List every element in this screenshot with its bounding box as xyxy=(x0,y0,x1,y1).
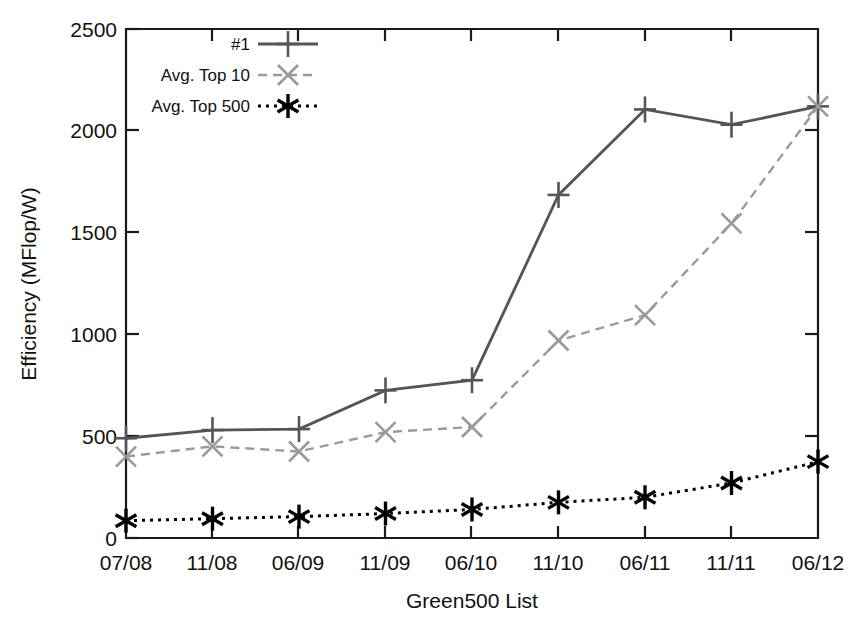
x-tick-label-1: 11/08 xyxy=(187,551,238,574)
series-layer xyxy=(115,93,829,532)
data-point xyxy=(635,305,655,325)
data-point xyxy=(808,450,829,474)
y-tick-label-500: 500 xyxy=(82,425,117,448)
data-point xyxy=(722,213,742,233)
y-tick-label-2500: 2500 xyxy=(70,18,117,41)
data-point xyxy=(289,505,310,529)
y-tick-label-2000: 2000 xyxy=(70,119,117,142)
series-2 xyxy=(116,450,829,533)
line-chart: 0 500 1000 1500 2000 2500 07/08 11/08 06… xyxy=(0,0,858,627)
y-tick-label-1500: 1500 xyxy=(70,221,117,244)
x-tick-label-3: 11/09 xyxy=(360,551,411,574)
chart-container: 0 500 1000 1500 2000 2500 07/08 11/08 06… xyxy=(0,0,858,627)
data-point xyxy=(376,422,396,442)
x-tick-label-0: 07/08 xyxy=(100,551,153,574)
data-point xyxy=(462,417,482,437)
x-axis-title: Green500 List xyxy=(406,589,538,612)
legend-label-1: Avg. Top 10 xyxy=(161,66,250,85)
y-tick-label-0: 0 xyxy=(105,527,117,550)
data-point xyxy=(288,416,310,442)
data-point xyxy=(461,367,483,393)
data-point xyxy=(116,509,137,533)
x-tick-label-8: 06/12 xyxy=(792,551,845,574)
data-point xyxy=(721,112,743,138)
x-tick-label-5: 11/10 xyxy=(533,551,584,574)
legend-label-0: #1 xyxy=(231,35,250,54)
data-point xyxy=(202,507,223,531)
data-point xyxy=(549,331,569,351)
y-axis-title: Efficiency (MFlop/W) xyxy=(17,187,40,380)
series-1 xyxy=(116,96,828,466)
x-tick-label-2: 06/09 xyxy=(272,551,325,574)
x-tick-label-7: 11/11 xyxy=(706,551,755,574)
legend-marker-0 xyxy=(277,31,299,57)
legend-marker-2 xyxy=(278,94,299,118)
x-tick-label-4: 06/10 xyxy=(445,551,498,574)
legend-samples xyxy=(258,31,318,118)
series-0 xyxy=(115,93,829,451)
legend: #1 Avg. Top 10 Avg. Top 500 xyxy=(151,31,318,118)
y-tick-label-1000: 1000 xyxy=(70,323,117,346)
data-point xyxy=(375,377,397,403)
legend-label-2: Avg. Top 500 xyxy=(151,97,250,116)
x-tick-label-6: 06/11 xyxy=(620,551,671,574)
